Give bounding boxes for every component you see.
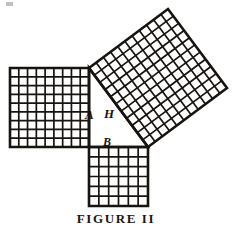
square-on-leg-a — [10, 68, 89, 147]
square-on-hypotenuse — [89, 9, 227, 147]
figure-caption: FIGURE II — [0, 211, 232, 227]
pythagorean-figure-svg — [0, 0, 232, 229]
figure-container: A H B FIGURE II — [0, 0, 232, 229]
label-hypotenuse-h: H — [104, 107, 114, 120]
squares-group — [10, 9, 227, 206]
label-leg-a: A — [85, 108, 94, 121]
square-on-leg-a-outline — [10, 68, 89, 147]
label-leg-b: B — [103, 136, 111, 148]
square-on-hypotenuse-outline — [89, 9, 227, 147]
square-on-leg-b — [89, 147, 148, 206]
